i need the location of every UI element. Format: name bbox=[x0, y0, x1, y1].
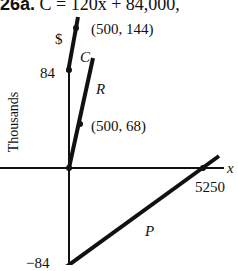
line-r bbox=[69, 58, 93, 168]
point-c-500 bbox=[73, 25, 79, 31]
point-r-500 bbox=[77, 121, 83, 127]
x-axis-label: x bbox=[227, 161, 234, 176]
origin-point bbox=[66, 165, 72, 171]
series-r-label: R bbox=[96, 82, 105, 97]
dollar-label: $ bbox=[55, 32, 63, 47]
y-axis-label: Thousands bbox=[6, 82, 22, 162]
series-c-label: C bbox=[80, 50, 90, 65]
point-c-intercept bbox=[66, 67, 72, 73]
y-tick-neg84: −84 bbox=[26, 256, 49, 271]
series-p-label: P bbox=[145, 224, 154, 239]
line-p bbox=[66, 156, 219, 265]
y-tick-84: 84 bbox=[40, 66, 55, 81]
point-p-5250 bbox=[200, 165, 206, 171]
point-c-label: (500, 144) bbox=[91, 22, 154, 37]
point-r-label: (500, 68) bbox=[91, 119, 146, 134]
x-tick-5250: 5250 bbox=[195, 180, 225, 195]
